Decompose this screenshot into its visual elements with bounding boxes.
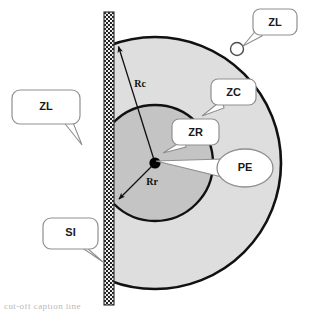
callout-pe-label: PE [238, 161, 253, 173]
rr-dimension-label: Rr [146, 176, 158, 187]
callout-si-label: SI [65, 226, 75, 238]
caption-text: cut-off caption line [4, 304, 81, 311]
diagram-svg: Rc Rr ZL ZC ZR [0, 0, 309, 317]
callout-zl-left[interactable]: ZL [12, 90, 82, 145]
figure-canvas: Rc Rr ZL ZC ZR [0, 0, 309, 317]
zl-marker-circle [231, 43, 244, 56]
callout-zl-left-label: ZL [39, 100, 53, 112]
callout-zr-label: ZR [188, 126, 203, 138]
callout-zl-right-label: ZL [268, 16, 282, 28]
callout-zc-label: ZC [226, 86, 241, 98]
callout-si[interactable]: SI [43, 218, 103, 262]
rc-dimension-label: Rc [134, 78, 146, 89]
point-electrode-dot [149, 157, 160, 168]
callout-zl-right[interactable]: ZL [243, 9, 297, 46]
caption-strip: cut-off caption line [0, 304, 309, 317]
interface-bar-si [104, 12, 114, 305]
